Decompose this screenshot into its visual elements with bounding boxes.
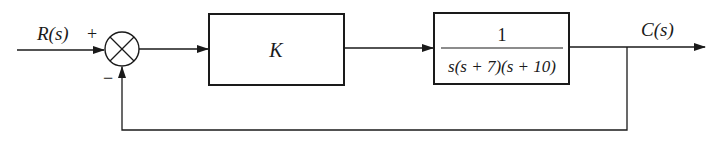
- controller-gain-label: K: [268, 39, 284, 61]
- minus-sign: −: [103, 68, 113, 88]
- summing-junction: [105, 32, 139, 66]
- plus-sign: +: [87, 24, 97, 44]
- block-diagram: R(s) + − K 1 s(s + 7)(s + 10) C(s): [0, 0, 710, 142]
- output-label: C(s): [641, 19, 674, 41]
- plant-numerator: 1: [498, 25, 507, 45]
- plant-denominator: s(s + 7)(s + 10): [448, 57, 556, 76]
- input-label: R(s): [36, 23, 69, 45]
